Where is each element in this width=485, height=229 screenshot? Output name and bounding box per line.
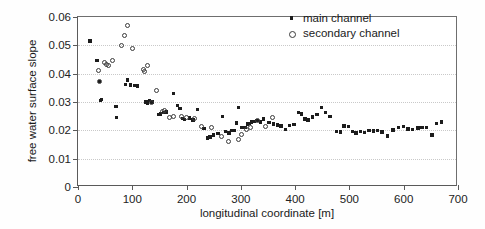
- gridline: [78, 159, 456, 160]
- x-tick: [132, 185, 133, 190]
- x-tick: [458, 185, 459, 190]
- gridline: [78, 45, 456, 46]
- gridline: [78, 74, 456, 75]
- x-axis-title: longitudinal coordinate [m]: [77, 207, 457, 219]
- x-tick: [241, 185, 242, 190]
- x-tick-label: 600: [394, 193, 413, 205]
- filled-square-icon: [287, 14, 296, 23]
- y-tick-label: 0.04: [49, 68, 71, 80]
- x-tick: [187, 185, 188, 190]
- data-point: [212, 133, 215, 136]
- data-point: [199, 124, 204, 129]
- data-point: [196, 108, 199, 111]
- data-point: [284, 128, 287, 131]
- data-point: [411, 128, 414, 131]
- data-point: [125, 23, 130, 28]
- data-point: [363, 131, 366, 134]
- data-point: [311, 115, 314, 118]
- data-point: [406, 127, 409, 130]
- data-point: [397, 126, 400, 129]
- y-tick: [73, 130, 78, 131]
- y-tick-label: 0.01: [49, 153, 71, 165]
- data-point: [270, 115, 275, 120]
- data-point: [119, 43, 124, 48]
- legend-label-secondary-channel: secondary channel: [303, 27, 400, 39]
- data-point: [347, 125, 350, 128]
- data-point: [122, 33, 127, 38]
- plot-area: 00.010.020.030.040.050.06 01002003004005…: [77, 16, 457, 186]
- data-point: [425, 126, 428, 129]
- data-point: [96, 68, 101, 73]
- data-point: [391, 128, 394, 131]
- y-tick-label: 0.06: [49, 11, 71, 23]
- y-axis-title: free water surface slope: [24, 16, 40, 186]
- x-tick: [295, 185, 296, 190]
- x-axis-title-text: longitudinal coordinate [m]: [200, 207, 334, 219]
- x-tick-label: 200: [177, 193, 196, 205]
- data-point: [106, 63, 111, 68]
- legend-item-secondary-channel: secondary channel: [287, 27, 400, 39]
- legend-item-main-channel: main channel: [287, 12, 400, 24]
- y-tick: [73, 17, 78, 18]
- data-point: [324, 111, 327, 114]
- data-point: [236, 137, 241, 142]
- data-point: [402, 125, 405, 128]
- data-point: [328, 115, 331, 118]
- data-point: [372, 129, 375, 132]
- data-point: [114, 105, 117, 108]
- x-tick: [349, 185, 350, 190]
- data-point: [209, 125, 214, 130]
- data-point: [124, 83, 127, 86]
- data-point: [420, 126, 423, 129]
- data-point: [262, 117, 265, 120]
- data-point: [237, 106, 240, 109]
- data-point: [136, 84, 139, 87]
- open-circle-icon: [287, 29, 296, 38]
- y-tick: [73, 102, 78, 103]
- data-point: [97, 79, 102, 84]
- data-point: [95, 59, 98, 62]
- data-point: [416, 126, 419, 129]
- data-point: [255, 118, 260, 123]
- data-point: [306, 118, 309, 121]
- data-point: [126, 78, 129, 81]
- data-point: [226, 139, 231, 144]
- data-point: [110, 58, 115, 63]
- data-point: [279, 124, 282, 127]
- data-point: [221, 115, 224, 118]
- x-tick-label: 300: [231, 193, 250, 205]
- data-point: [376, 129, 379, 132]
- data-point: [172, 92, 175, 95]
- y-axis-title-text: free water surface slope: [26, 40, 38, 163]
- data-point: [115, 116, 118, 119]
- data-point: [320, 106, 323, 109]
- data-point: [235, 121, 238, 124]
- data-point: [219, 134, 224, 139]
- data-point: [192, 116, 197, 121]
- data-point: [339, 130, 342, 133]
- chart-legend: main channel secondary channel: [287, 12, 400, 39]
- x-tick-label: 500: [340, 193, 359, 205]
- x-tick-label: 700: [448, 193, 467, 205]
- data-point: [367, 129, 370, 132]
- y-tick-label: 0: [65, 181, 71, 193]
- data-point: [233, 129, 236, 132]
- data-point: [154, 88, 159, 93]
- data-point: [386, 134, 389, 137]
- chart-figure: free water surface slope 00.010.020.030.…: [0, 0, 485, 229]
- y-tick: [73, 74, 78, 75]
- y-tick: [73, 159, 78, 160]
- data-point: [292, 123, 295, 126]
- data-point: [267, 121, 270, 124]
- data-point: [263, 124, 268, 129]
- data-point: [239, 132, 244, 137]
- data-point: [171, 114, 176, 119]
- data-point: [178, 107, 181, 110]
- data-point: [300, 112, 303, 115]
- data-point: [315, 113, 318, 116]
- data-point: [288, 124, 291, 127]
- data-point: [130, 46, 135, 51]
- data-point: [142, 69, 147, 74]
- x-tick: [78, 185, 79, 190]
- x-tick-label: 0: [75, 193, 81, 205]
